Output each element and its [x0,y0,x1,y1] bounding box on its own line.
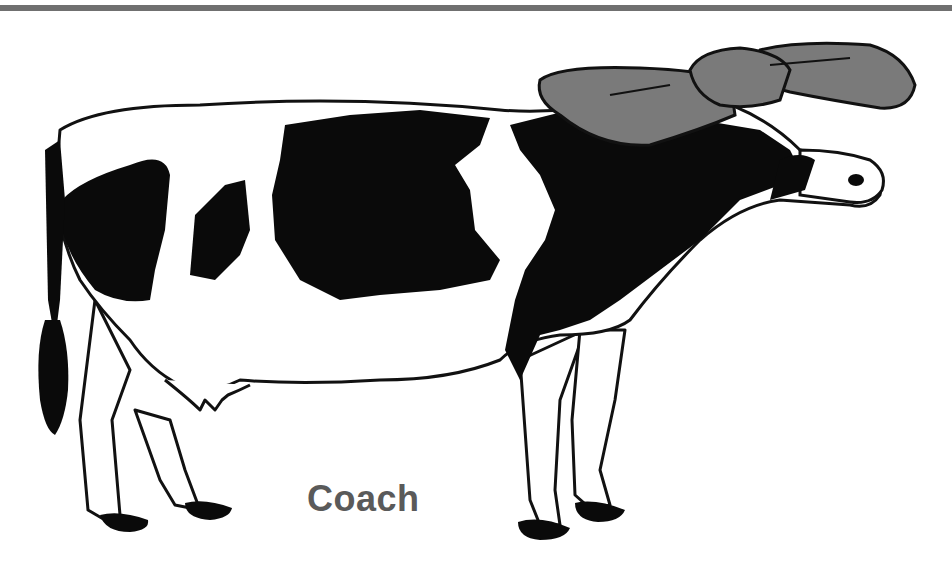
cow-head [770,150,884,203]
caption-label: Coach [307,478,420,520]
cow-illustration [0,0,952,571]
